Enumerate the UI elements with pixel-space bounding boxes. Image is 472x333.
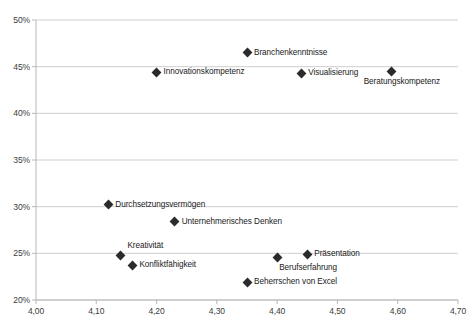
data-point-label: Unternehmerisches Denken: [182, 217, 282, 226]
data-point-label: Branchenkenntnisse: [254, 48, 327, 57]
x-tick-label: 4,50: [317, 306, 357, 316]
y-tick-label: 50%: [0, 15, 30, 25]
x-tick-label: 4,00: [16, 306, 56, 316]
x-tick-label: 4,60: [378, 306, 418, 316]
y-tick-label: 45%: [0, 62, 30, 72]
y-tick-label: 25%: [0, 248, 30, 258]
y-tick-label: 20%: [0, 295, 30, 305]
data-point-label: Beratungskompetenz: [364, 77, 440, 86]
data-point-label: Konfliktfähigkeit: [139, 260, 196, 269]
gridlines: [36, 20, 458, 300]
y-tick-label: 35%: [0, 155, 30, 165]
x-tick-label: 4,30: [197, 306, 237, 316]
scatter-chart: BranchenkenntnisseInnovationskompetenzVi…: [0, 0, 472, 333]
data-point-label: Präsentation: [314, 249, 359, 258]
chart-canvas: [0, 0, 472, 333]
y-tick-label: 30%: [0, 202, 30, 212]
y-axis-ticks: [32, 20, 36, 300]
data-point-label: Visualisierung: [308, 68, 358, 77]
y-tick-label: 40%: [0, 108, 30, 118]
x-tick-label: 4,20: [137, 306, 177, 316]
x-tick-label: 4,10: [76, 306, 116, 316]
data-point-label: Kreativität: [127, 241, 163, 250]
data-point-label: Beherrschen von Excel: [254, 277, 337, 286]
x-axis-ticks: [36, 300, 458, 304]
x-tick-label: 4,40: [257, 306, 297, 316]
x-tick-label: 4,70: [438, 306, 472, 316]
data-point-label: Durchsetzungsvermögen: [115, 200, 205, 209]
data-point-label: Innovationskompetenz: [164, 67, 245, 76]
data-point-label: Berufserfahrung: [279, 263, 337, 272]
